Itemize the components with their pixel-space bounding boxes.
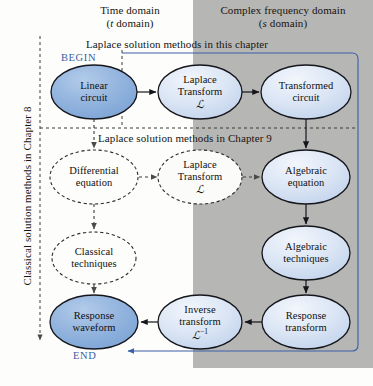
node-linear-circuit[interactable] <box>51 65 137 119</box>
figure-root: Time domain (t domain) Complex frequency… <box>0 0 373 386</box>
flow-arrows-solid <box>137 92 306 322</box>
node-transformed-circuit[interactable] <box>261 65 351 119</box>
node-classical-techniques[interactable] <box>52 232 136 284</box>
node-laplace-transform[interactable] <box>158 65 242 119</box>
node-response-transform[interactable] <box>262 295 350 349</box>
node-differential-equation[interactable] <box>50 150 138 204</box>
node-response-waveform[interactable] <box>50 295 138 349</box>
node-algebraic-techniques[interactable] <box>262 226 350 280</box>
diagram-vector-layer <box>0 0 373 386</box>
node-inverse-transform[interactable] <box>158 295 242 349</box>
node-algebraic-equation[interactable] <box>262 150 350 204</box>
node-laplace-transform-2[interactable] <box>158 150 242 204</box>
